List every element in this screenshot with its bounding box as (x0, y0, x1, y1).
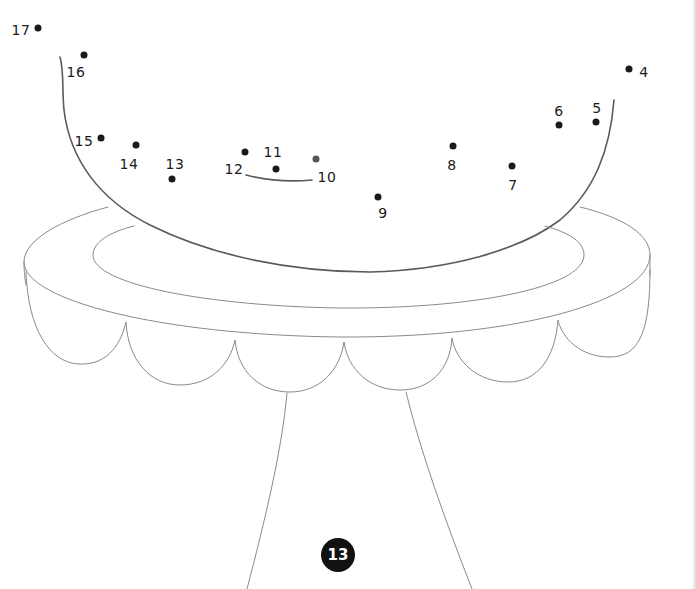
dot-11[interactable] (273, 166, 280, 173)
dot-label-13: 13 (166, 157, 185, 171)
activity-page: 4 5 6 7 8 9 10 11 12 13 14 15 16 17 13 (0, 0, 696, 589)
dot-9[interactable] (375, 194, 382, 201)
dot-label-5: 5 (592, 101, 601, 115)
dot-label-14: 14 (120, 157, 139, 171)
dot-7[interactable] (509, 163, 516, 170)
dot-label-10: 10 (318, 170, 337, 184)
dot-8[interactable] (450, 143, 457, 150)
bowl-outline (60, 57, 614, 272)
dot-16[interactable] (81, 52, 88, 59)
dot-label-9: 9 (378, 206, 387, 220)
cake-stand-drawing (0, 0, 696, 589)
page-edge-shadow (692, 0, 696, 589)
dot-12[interactable] (242, 149, 249, 156)
dot-6[interactable] (556, 122, 563, 129)
dot-label-15: 15 (75, 134, 94, 148)
dot-17[interactable] (35, 25, 42, 32)
pedestal-left (247, 393, 287, 589)
dot-label-17: 17 (12, 23, 31, 37)
plate-outer-rim (24, 207, 650, 337)
dot-5[interactable] (593, 119, 600, 126)
dot-15[interactable] (98, 135, 105, 142)
plate-inner-ring (93, 226, 584, 308)
mouth-line (246, 175, 312, 181)
dot-label-7: 7 (508, 178, 517, 192)
page-number-badge: 13 (321, 538, 355, 572)
dot-label-4: 4 (639, 65, 648, 79)
dot-4[interactable] (626, 66, 633, 73)
dot-label-11: 11 (264, 145, 283, 159)
dot-label-16: 16 (67, 65, 86, 79)
dot-14[interactable] (133, 142, 140, 149)
dot-13[interactable] (169, 176, 176, 183)
scalloped-skirt (26, 270, 650, 392)
dot-label-12: 12 (225, 162, 244, 176)
dot-10[interactable] (313, 156, 320, 163)
dot-label-6: 6 (554, 104, 563, 118)
pedestal-right (406, 392, 472, 589)
dot-label-8: 8 (447, 158, 456, 172)
